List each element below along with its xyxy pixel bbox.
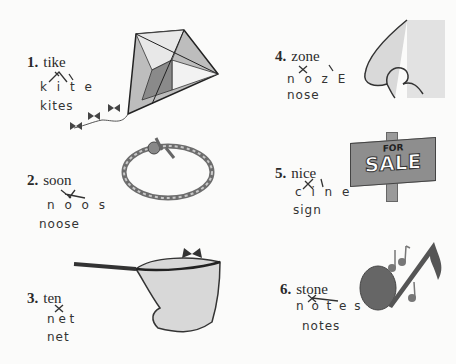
for-sale-sign-picture: FOR SALE bbox=[350, 132, 436, 200]
answer-handwritten: nose bbox=[287, 88, 320, 102]
item-number: 2. bbox=[27, 172, 38, 188]
item-3: 3.ten n e t net bbox=[27, 290, 62, 307]
item-number: 3. bbox=[27, 290, 38, 306]
item-number: 1. bbox=[27, 54, 38, 70]
item-number: 4. bbox=[275, 48, 286, 64]
item-6: 6.stone n o t e s notes bbox=[280, 281, 328, 298]
prompt-word: zone bbox=[291, 48, 319, 64]
scrambled-letters: n o z E bbox=[287, 72, 348, 86]
item-number: 6. bbox=[280, 281, 291, 297]
music-notes-picture bbox=[350, 236, 440, 326]
answer-handwritten: sign bbox=[293, 203, 322, 217]
prompt-word: soon bbox=[43, 172, 71, 188]
item-number: 5. bbox=[275, 165, 286, 181]
item-4: 4.zone n o z E nose bbox=[275, 48, 320, 65]
kite-picture bbox=[62, 30, 222, 130]
answer-handwritten: net bbox=[47, 330, 70, 344]
item-4-prompt: 4.zone bbox=[275, 48, 320, 65]
scrambled-letters: n e t bbox=[47, 312, 74, 326]
scrambled-letters: c i n e bbox=[295, 185, 352, 199]
sign-board: FOR SALE bbox=[350, 137, 436, 187]
item-5: 5.nice c i n e sign bbox=[275, 165, 316, 182]
noose-picture bbox=[118, 136, 218, 206]
item-2: 2.soon n o o s noose bbox=[27, 172, 72, 189]
scrambled-letters: n o o s bbox=[47, 198, 108, 212]
answer-handwritten: notes bbox=[302, 319, 340, 333]
item-2-prompt: 2.soon bbox=[27, 172, 72, 189]
item-1: 1.tike k i t e kites bbox=[27, 54, 66, 71]
butterfly-net-picture bbox=[72, 242, 232, 338]
nose-picture bbox=[345, 18, 445, 98]
item-1-prompt: 1.tike bbox=[27, 54, 66, 71]
answer-handwritten: noose bbox=[39, 217, 80, 231]
